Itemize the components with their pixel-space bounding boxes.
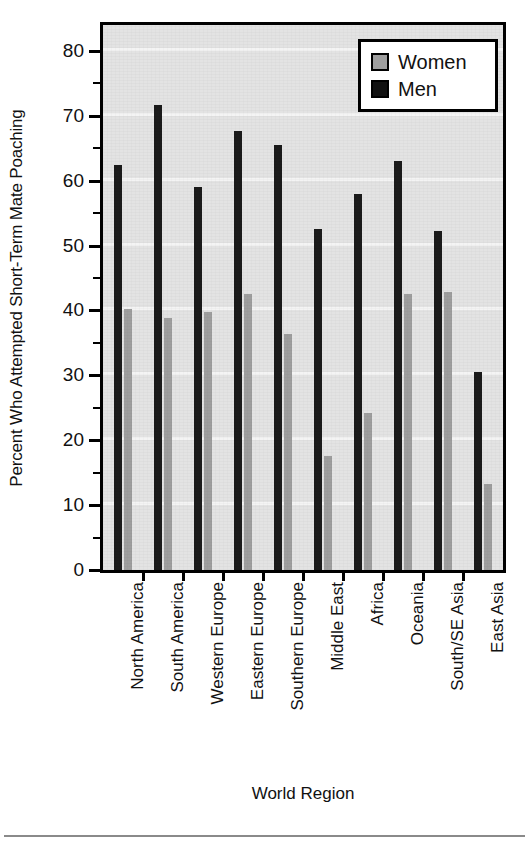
x-tick <box>462 570 465 581</box>
y-tick-major <box>89 374 100 377</box>
x-tick <box>302 570 305 581</box>
y-tick-label: 70 <box>40 106 84 125</box>
y-tick-major <box>89 115 100 118</box>
y-tick-minor <box>93 147 100 149</box>
legend-swatch-men-icon <box>371 80 389 98</box>
x-tick-label: South/SE Asia <box>449 582 466 732</box>
y-tick-label: 30 <box>40 365 84 384</box>
bar-women <box>284 334 292 570</box>
bar-women <box>124 309 132 570</box>
y-tick-major <box>89 439 100 442</box>
y-tick-label: 80 <box>40 41 84 60</box>
legend: Women Men <box>358 39 498 112</box>
gridline <box>103 243 503 246</box>
y-tick-major <box>89 50 100 53</box>
y-tick-label: 40 <box>40 300 84 319</box>
y-tick-label: 60 <box>40 171 84 190</box>
x-tick <box>422 570 425 581</box>
y-axis-title: Percent Who Attempted Short-Term Mate Po… <box>0 0 34 596</box>
y-tick-minor <box>93 277 100 279</box>
x-tick-label: Eastern Europe <box>249 582 266 732</box>
legend-label-women: Women <box>398 52 467 72</box>
x-tick <box>222 570 225 581</box>
x-tick <box>142 570 145 581</box>
gridline <box>103 437 503 440</box>
x-tick-label: East Asia <box>489 582 506 732</box>
x-tick <box>382 570 385 581</box>
y-tick-major <box>89 504 100 507</box>
y-tick-major <box>89 569 100 572</box>
x-tick <box>262 570 265 581</box>
figure: Percent Who Attempted Short-Term Mate Po… <box>0 0 529 842</box>
x-tick <box>342 570 345 581</box>
legend-label-men: Men <box>398 79 437 99</box>
bar-men <box>354 194 362 570</box>
legend-item-men: Men <box>371 75 485 102</box>
y-tick-label: 10 <box>40 495 84 514</box>
gridline <box>103 372 503 375</box>
bar-men <box>394 161 402 570</box>
legend-item-women: Women <box>371 48 485 75</box>
bar-women <box>164 318 172 570</box>
gridline <box>103 113 503 116</box>
y-tick-minor <box>93 407 100 409</box>
bar-men <box>114 165 122 570</box>
x-tick-label: Africa <box>369 582 386 732</box>
y-tick-major <box>89 245 100 248</box>
y-tick-minor <box>93 537 100 539</box>
x-tick-label: Oceania <box>409 582 426 732</box>
page-divider <box>4 835 525 837</box>
bar-women <box>364 413 372 570</box>
y-tick-label: 0 <box>40 560 84 579</box>
bar-men <box>194 187 202 570</box>
bar-men <box>154 105 162 570</box>
x-axis-title: World Region <box>100 784 506 804</box>
bar-men <box>434 231 442 570</box>
bar-women <box>404 294 412 570</box>
bar-women <box>324 456 332 570</box>
x-tick-label: Middle East <box>329 582 346 732</box>
y-tick-major <box>89 180 100 183</box>
x-tick-label: Western Europe <box>209 582 226 732</box>
bar-men <box>474 372 482 570</box>
x-tick <box>182 570 185 581</box>
bar-women <box>484 484 492 570</box>
y-tick-minor <box>93 212 100 214</box>
y-tick-label: 50 <box>40 236 84 255</box>
y-tick-label: 20 <box>40 430 84 449</box>
legend-swatch-women-icon <box>371 53 389 71</box>
gridline <box>103 502 503 505</box>
plot-area: Women Men <box>100 22 506 573</box>
bar-women <box>204 312 212 570</box>
bar-men <box>314 229 322 570</box>
y-tick-minor <box>93 82 100 84</box>
x-tick-label: Southern Europe <box>289 582 306 732</box>
x-tick-label: South America <box>169 582 186 732</box>
bar-women <box>444 292 452 570</box>
y-tick-minor <box>93 472 100 474</box>
bar-women <box>244 294 252 570</box>
bar-men <box>234 131 242 570</box>
gridline <box>103 178 503 181</box>
gridline <box>103 307 503 310</box>
bar-men <box>274 145 282 570</box>
x-tick-label: North America <box>129 582 146 732</box>
y-tick-minor <box>93 342 100 344</box>
y-tick-major <box>89 309 100 312</box>
